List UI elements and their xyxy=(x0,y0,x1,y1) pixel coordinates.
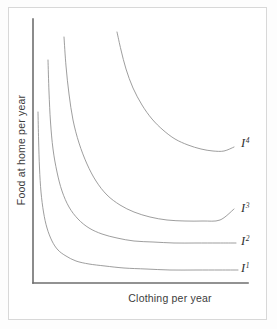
curve-label-I4: I4 xyxy=(240,136,250,151)
curve-labels-group: I1I2I3I4 xyxy=(240,136,250,276)
x-axis-label: Clothing per year xyxy=(128,292,212,304)
plot-canvas: I1I2I3I4 Food at home per year Clothing … xyxy=(0,0,277,329)
curve-label-I2: I2 xyxy=(240,234,250,249)
indifference-curve-I4 xyxy=(117,32,234,151)
curve-label-superscript: 3 xyxy=(245,201,250,210)
curve-label-I3: I3 xyxy=(240,201,250,216)
indifference-curve-I3 xyxy=(64,37,234,221)
indifference-curve-I1 xyxy=(38,112,238,270)
curve-label-I1: I1 xyxy=(240,261,249,276)
indifference-curves-group xyxy=(38,32,238,270)
indifference-curve-figure: I1I2I3I4 Food at home per year Clothing … xyxy=(0,0,277,329)
indifference-curve-I2 xyxy=(48,60,236,243)
curve-label-superscript: 1 xyxy=(246,261,250,270)
y-axis-label: Food at home per year xyxy=(15,94,27,205)
curve-label-superscript: 2 xyxy=(246,234,250,243)
curve-label-superscript: 4 xyxy=(246,136,250,145)
